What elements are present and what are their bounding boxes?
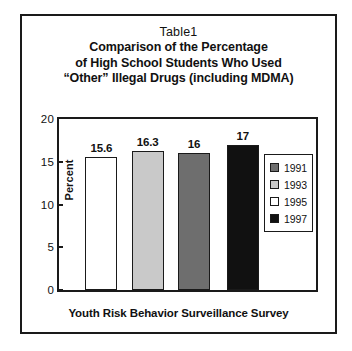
bar-1991 (178, 153, 210, 290)
y-tick-label-5: 5 (47, 241, 54, 253)
y-tick-label-0: 0 (47, 284, 54, 296)
bar-1995 (85, 157, 117, 290)
y-tick-mark-0 (59, 289, 63, 291)
chart-title-line-4: “Other” Illegal Drugs (including MDMA) (22, 71, 335, 87)
legend-item-1991: 1991 (270, 159, 308, 176)
legend-label-1991: 1991 (284, 162, 307, 174)
legend-swatch-1995 (270, 197, 279, 206)
legend-swatch-1997 (270, 214, 279, 223)
chart-title-line-2: Comparison of the Percentage (22, 40, 335, 56)
legend-item-1995: 1995 (270, 193, 308, 210)
y-tick-mark-5 (59, 246, 63, 248)
legend-swatch-1991 (270, 163, 279, 172)
bar-value-label-1997: 17 (237, 130, 249, 142)
chart-title: Table1 Comparison of the Percentage of H… (22, 25, 335, 87)
legend-label-1997: 1997 (284, 213, 307, 225)
chart-title-line-1: Table1 (22, 25, 335, 40)
bar-value-label-1993: 16.3 (137, 136, 159, 148)
figure-panel: Table1 Comparison of the Percentage of H… (20, 14, 337, 334)
bar-1997 (227, 145, 259, 290)
bar-1993 (132, 151, 164, 290)
y-tick-label-20: 20 (41, 113, 54, 125)
legend-item-1993: 1993 (270, 176, 308, 193)
y-tick-label-10: 10 (41, 199, 54, 211)
legend-item-1997: 1997 (270, 210, 308, 227)
legend-swatch-1993 (270, 180, 279, 189)
legend: 1991199319951997 (264, 154, 313, 232)
y-axis-title: Percent (63, 145, 75, 215)
chart-title-line-3: of High School Students Who Used (22, 56, 335, 72)
x-axis-caption: Youth Risk Behavior Surveillance Survey (22, 307, 335, 319)
legend-label-1993: 1993 (284, 179, 307, 191)
bar-value-label-1995: 15.6 (91, 142, 113, 154)
y-tick-mark-15 (59, 161, 63, 163)
y-tick-label-15: 15 (41, 156, 54, 168)
legend-label-1995: 1995 (284, 196, 307, 208)
y-tick-mark-10 (59, 204, 63, 206)
bar-value-label-1991: 16 (188, 138, 200, 150)
